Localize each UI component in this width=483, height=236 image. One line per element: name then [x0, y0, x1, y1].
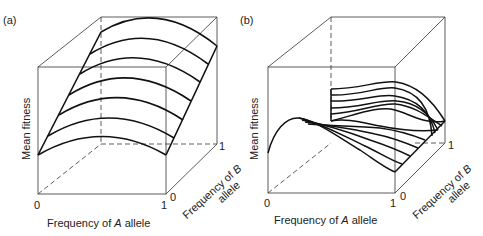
panel-a: (a) Mean fitness 0 1 Frequency of A alle… — [0, 0, 240, 236]
z-tick-1-a: 1 — [219, 140, 225, 152]
x-tick-1-a: 1 — [161, 199, 167, 211]
x-axis-label-italic: A — [114, 217, 121, 229]
x-tick-0-b: 0 — [264, 197, 270, 209]
y-axis-label-b: Mean fitness — [248, 98, 260, 160]
panel-label-b: (b) — [240, 14, 253, 26]
z-tick-0-b: 0 — [400, 190, 406, 202]
x-axis-label-prefix: Frequency of — [47, 217, 114, 229]
panel-b: (b) Mean fitness 0 1 Frequency of A alle… — [230, 0, 483, 236]
x-tick-0-a: 0 — [34, 199, 40, 211]
x-axis-label-prefix: Frequency of — [274, 214, 341, 226]
x-axis-label-b: Frequency of A allele — [274, 214, 377, 226]
z-tick-0-a: 0 — [170, 191, 176, 203]
panel-label-a: (a) — [3, 14, 16, 26]
x-tick-1-b: 1 — [390, 197, 396, 209]
x-axis-label-italic: A — [341, 214, 348, 226]
x-axis-label-suffix: allele — [349, 214, 378, 226]
z-tick-1-b: 1 — [448, 139, 454, 151]
x-axis-label-a: Frequency of A allele — [47, 217, 150, 229]
y-axis-label-a: Mean fitness — [20, 98, 32, 160]
x-axis-label-suffix: allele — [122, 217, 151, 229]
